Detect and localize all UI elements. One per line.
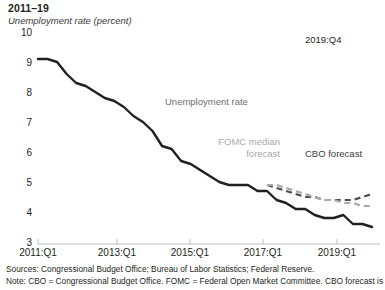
figure-container: 2011–19 Unemployment rate (percent) 10 9… bbox=[0, 0, 385, 290]
annotation-endpoint-2019q4: 2019:Q4 bbox=[305, 34, 341, 45]
x-axis-ticks bbox=[38, 239, 337, 244]
footnote-note: Note: CBO = Congressional Budget Office.… bbox=[6, 276, 385, 288]
annotation-fomc-line1: FOMC median bbox=[218, 136, 280, 147]
footnotes: Sources: Congressional Budget Office; Bu… bbox=[6, 264, 385, 287]
annotation-unemployment-rate: Unemployment rate bbox=[165, 96, 248, 107]
x-axis-tick-2013q1: 2013:Q1 bbox=[87, 247, 147, 258]
x-axis-tick-2011q1: 2011:Q1 bbox=[8, 247, 68, 258]
x-axis-tick-2017q1: 2017:Q1 bbox=[233, 247, 293, 258]
annotation-fomc-median-forecast: FOMC median forecast bbox=[208, 136, 280, 159]
series-line-unemployment-rate bbox=[38, 59, 372, 227]
x-axis-tick-2015q1: 2015:Q1 bbox=[160, 247, 220, 258]
annotation-fomc-line2: forecast bbox=[246, 148, 280, 159]
annotation-cbo-forecast: CBO forecast bbox=[305, 148, 362, 159]
footnote-sources: Sources: Congressional Budget Office; Bu… bbox=[6, 264, 385, 276]
plot-area: 10 9 8 7 6 5 4 3 2011:Q1 2013:Q1 2015 bbox=[0, 0, 385, 258]
x-axis-tick-2019q1: 2019:Q1 bbox=[307, 247, 367, 258]
